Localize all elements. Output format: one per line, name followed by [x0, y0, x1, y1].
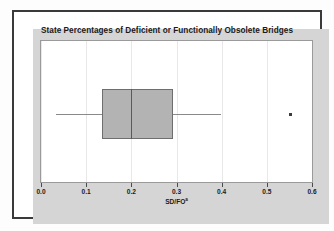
tick-mark-2 — [131, 183, 132, 187]
box-iqr — [102, 89, 173, 139]
gridline-3 — [177, 41, 178, 182]
tick-mark-5 — [267, 183, 268, 187]
tick-mark-1 — [86, 183, 87, 187]
outlier-point-0 — [289, 113, 292, 116]
tick-mark-4 — [222, 183, 223, 187]
plot-area — [40, 40, 313, 183]
tick-label-4: 0.4 — [217, 188, 226, 195]
tick-mark-0 — [41, 183, 42, 187]
tick-mark-3 — [177, 183, 178, 187]
x-axis-label-text: SD/FO — [165, 198, 185, 205]
whisker-left — [56, 114, 102, 115]
gridline-5 — [267, 41, 268, 182]
tick-label-5: 0.5 — [262, 188, 271, 195]
x-axis-label: SD/FOa — [40, 197, 313, 205]
x-axis-label-footnote-marker: a — [185, 197, 188, 202]
gridline-0 — [41, 41, 42, 182]
tick-label-1: 0.1 — [82, 188, 91, 195]
tick-label-2: 0.2 — [127, 188, 136, 195]
gridline-1 — [86, 41, 87, 182]
gridline-6 — [312, 41, 313, 182]
tick-label-3: 0.3 — [172, 188, 181, 195]
tick-label-0: 0.0 — [36, 188, 45, 195]
median-line — [131, 89, 132, 139]
figure-root: State Percentages of Deficient or Functi… — [0, 0, 334, 231]
whisker-right — [173, 114, 220, 115]
tick-mark-6 — [312, 183, 313, 187]
chart-title: State Percentages of Deficient or Functi… — [19, 26, 315, 35]
tick-label-6: 0.6 — [307, 188, 316, 195]
gridline-4 — [222, 41, 223, 182]
